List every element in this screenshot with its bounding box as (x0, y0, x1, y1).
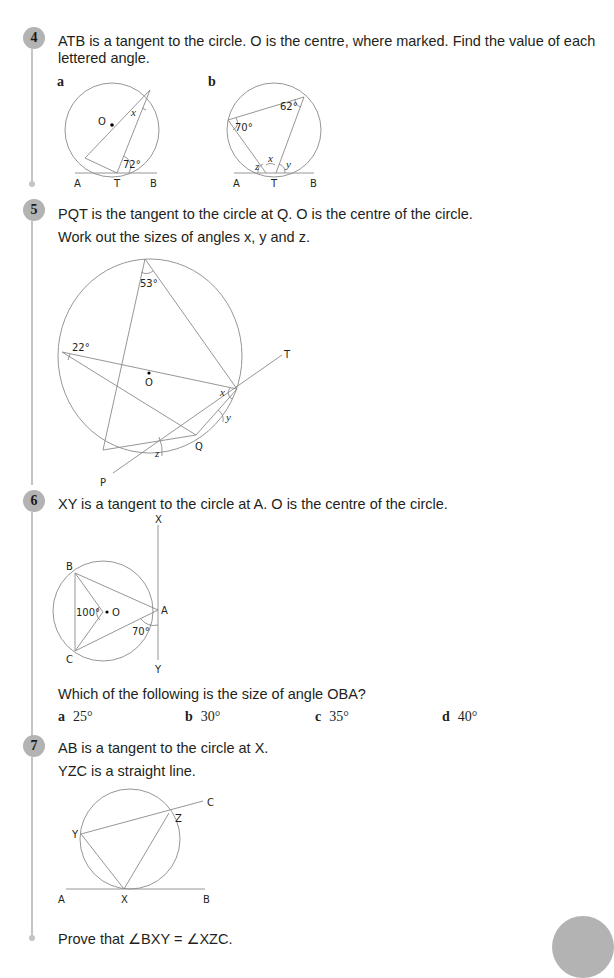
question-text: Work out the sizes of angles x, y and z. (58, 229, 310, 246)
question-text: XY is a tangent to the circle at A. O is… (58, 496, 448, 513)
angle-label-x: x (267, 152, 273, 164)
circle (80, 789, 180, 889)
question-rail (31, 512, 33, 742)
point-label-O: O (145, 377, 153, 388)
question-number-badge: 5 (23, 199, 45, 221)
point-label-Z: Z (175, 813, 182, 824)
point-label-B: B (203, 894, 210, 905)
point-label-X: X (121, 894, 128, 905)
point-label-T: T (270, 178, 278, 189)
page-corner-tab (552, 916, 614, 978)
chord-BA (75, 573, 158, 610)
option-value: 30° (201, 709, 221, 724)
point-label-A: A (233, 178, 240, 189)
angle-arc (228, 388, 232, 399)
angle-label-x: x (219, 386, 225, 398)
point-label-P: P (100, 477, 106, 488)
question-number-badge: 7 (23, 735, 45, 757)
question-number-badge: 6 (23, 490, 45, 512)
option-value: 35° (329, 709, 349, 724)
point-label-A: A (74, 178, 81, 189)
angle-label-x: x (130, 106, 136, 118)
diameter-chord (85, 90, 150, 158)
angle-label-z: z (254, 160, 260, 172)
chord (103, 259, 145, 450)
answer-option-b[interactable]: b30° (185, 709, 220, 725)
option-letter: d (442, 709, 450, 724)
diagram-7: A X B Y Z C (55, 785, 225, 900)
question-rail-end (29, 181, 35, 187)
answer-option-a[interactable]: a25° (58, 709, 93, 725)
angle-label: 72° (123, 159, 141, 170)
angle-label-y: y (225, 411, 231, 423)
question-rail (31, 49, 33, 183)
line-YZC (81, 801, 203, 834)
diagram-6: 100° O 70° X Y A B C (55, 515, 185, 675)
angle-label: 70° (235, 122, 253, 133)
point-label-Q: Q (195, 441, 203, 452)
chord (85, 158, 117, 173)
option-letter: a (58, 709, 65, 724)
angle-label: 22° (72, 342, 90, 353)
point-label-O: O (98, 116, 106, 127)
point-label-B: B (150, 178, 157, 189)
angle-label: 70° (132, 626, 150, 637)
point-label-C: C (66, 654, 73, 665)
question-rail (31, 757, 33, 937)
option-value: 40° (458, 709, 478, 724)
question-text: ATB is a tangent to the circle. O is the… (58, 33, 595, 50)
point-label-T: T (113, 178, 121, 189)
angle-label-z: z (154, 447, 160, 459)
point-label-T: T (283, 349, 291, 360)
option-value: 25° (73, 709, 93, 724)
question-text: YZC is a straight line. (58, 763, 196, 780)
diagram-4a: O x 72° A T B (60, 75, 170, 195)
angle-label: 62° (280, 101, 298, 112)
question-number-badge: 4 (23, 27, 45, 49)
point-label-Y: Y (71, 829, 79, 840)
point-label-Y: Y (154, 664, 162, 675)
centre-point (105, 610, 108, 613)
angle-label: 100° (76, 607, 100, 618)
angle-label-y: y (285, 158, 291, 170)
point-label-A: A (161, 605, 168, 616)
tangent-line-PQT (113, 355, 282, 473)
point-label-X: X (155, 514, 162, 525)
angle-arc (141, 271, 153, 274)
question-text: PQT is the tangent to the circle at Q. O… (58, 206, 473, 223)
chord (62, 352, 196, 435)
question-text: AB is a tangent to the circle at X. (58, 740, 268, 757)
angle-arc (159, 437, 162, 456)
circle (53, 561, 153, 661)
answer-option-c[interactable]: c35° (315, 709, 349, 725)
point-label-A: A (58, 894, 65, 905)
centre-point (147, 371, 150, 374)
question-rail (31, 221, 33, 485)
angle-arc (141, 619, 158, 626)
point-label-O: O (112, 607, 120, 618)
point-label-B: B (310, 178, 317, 189)
prove-statement: Prove that ∠BXY = ∠XZC. (58, 931, 232, 948)
diagram-5: 53° 22° O x y z Q T P (50, 250, 300, 490)
chord (145, 259, 237, 389)
angle-arc (279, 164, 285, 173)
option-letter: b (185, 709, 193, 724)
question-rail-end (29, 935, 35, 941)
angle-label: 53° (140, 278, 158, 289)
question-text: lettered angle. (58, 50, 150, 67)
question-prompt: Which of the following is the size of an… (58, 686, 366, 703)
centre-point (110, 123, 114, 127)
option-letter: c (315, 709, 321, 724)
answer-option-d[interactable]: d40° (442, 709, 477, 725)
diagram-4b: 70° 62° x y z A T B (200, 75, 320, 195)
point-label-C: C (207, 797, 214, 808)
point-label-B: B (66, 561, 73, 572)
